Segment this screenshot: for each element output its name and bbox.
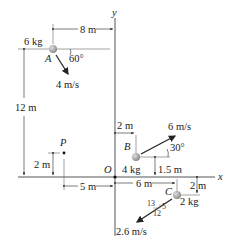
label-b: B xyxy=(124,141,131,152)
particle-c: C 2 kg 2 m 2.6 m/s 13 5 12 xyxy=(116,179,206,237)
angle-arc-b xyxy=(167,149,168,157)
svg-text:2 m: 2 m xyxy=(34,159,50,170)
dim-p-x: 5 m xyxy=(66,181,113,192)
svg-text:1.5 m: 1.5 m xyxy=(158,164,182,175)
particle-b: 2 m B 4 kg 6 m/s 30° 1.5 m xyxy=(117,120,191,175)
label-a: A xyxy=(44,53,52,64)
point-p: P 2 m xyxy=(34,137,67,190)
svg-text:13: 13 xyxy=(147,199,155,208)
slope-triangle-c: 13 5 12 xyxy=(147,199,166,218)
label-c: C xyxy=(165,186,173,197)
svg-text:5: 5 xyxy=(162,202,166,211)
angle-a: 60° xyxy=(69,53,84,64)
speed-a: 4 m/s xyxy=(56,79,79,90)
dim-a-y: 12 m xyxy=(15,51,36,175)
y-axis-label: y xyxy=(111,7,117,18)
svg-text:12: 12 xyxy=(153,209,161,218)
svg-text:5 m: 5 m xyxy=(80,181,96,192)
svg-text:8 m: 8 m xyxy=(80,24,96,35)
svg-text:P: P xyxy=(59,137,67,148)
origin-label: O xyxy=(104,164,112,175)
angle-b: 30° xyxy=(170,142,185,153)
ball-a xyxy=(49,45,57,53)
speed-b: 6 m/s xyxy=(168,121,191,132)
svg-text:2 m: 2 m xyxy=(190,180,206,191)
svg-text:6 m: 6 m xyxy=(136,178,152,189)
x-axis-label: x xyxy=(217,171,223,182)
mass-b: 4 kg xyxy=(122,164,141,175)
ball-b xyxy=(132,153,140,161)
svg-text:12 m: 12 m xyxy=(15,102,36,113)
speed-c: 2.6 m/s xyxy=(116,226,147,237)
mass-c: 2 kg xyxy=(180,196,199,207)
svg-text:2 m: 2 m xyxy=(117,120,133,131)
velocity-arrow-a xyxy=(56,55,68,74)
mass-a: 6 kg xyxy=(24,36,43,47)
particle-a: 6 kg A 4 m/s 60° xyxy=(18,36,110,90)
origin-dot xyxy=(113,175,116,178)
dim-a-x: 8 m xyxy=(53,24,113,44)
dynamics-figure: x y O 6 kg A 4 m/s 60° 8 m 12 m P 2 m xyxy=(0,0,230,241)
